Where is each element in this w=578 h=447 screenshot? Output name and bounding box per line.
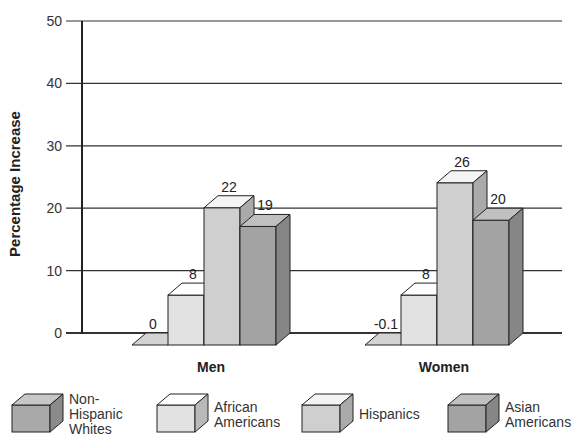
- y-tick-label: 0: [54, 325, 62, 341]
- bars: 082219-0.182620: [132, 154, 523, 345]
- y-tick-label: 10: [46, 263, 62, 279]
- legend-item: AfricanAmericans: [157, 394, 280, 432]
- legend-item: Hispanics: [302, 394, 420, 432]
- legend: Non-HispanicWhitesAfricanAmericansHispan…: [12, 391, 571, 437]
- bar-value-label: 26: [454, 154, 470, 170]
- y-tick-label: 50: [46, 13, 62, 29]
- bar: [240, 214, 290, 345]
- legend-label: Whites: [69, 421, 112, 437]
- bar-chart: 01020304050 Percentage Increase 082219-0…: [0, 0, 578, 447]
- bar: [473, 208, 523, 345]
- legend-item: Non-HispanicWhites: [12, 391, 123, 437]
- category-label: Men: [197, 359, 225, 375]
- bar-value-label: 8: [422, 266, 430, 282]
- legend-label: Hispanic: [69, 406, 123, 422]
- legend-label: Americans: [505, 414, 571, 430]
- bar-value-label: 0: [149, 316, 157, 332]
- category-labels: MenWomen: [197, 359, 469, 375]
- y-axis: 01020304050: [46, 13, 82, 341]
- legend-label: Non-: [69, 391, 100, 407]
- bar-value-label: 19: [257, 197, 273, 213]
- y-tick-label: 30: [46, 138, 62, 154]
- y-tick-label: 20: [46, 200, 62, 216]
- bar-value-label: 20: [490, 191, 506, 207]
- y-axis-label: Percentage Increase: [6, 111, 23, 257]
- legend-swatch: [157, 405, 195, 432]
- bar-value-label: -0.1: [374, 316, 398, 332]
- legend-label: African: [214, 399, 258, 415]
- bar-value-label: 22: [221, 179, 237, 195]
- legend-label: Hispanics: [359, 406, 420, 422]
- legend-swatch: [448, 405, 486, 432]
- bar-value-label: 8: [189, 266, 197, 282]
- y-tick-label: 40: [46, 75, 62, 91]
- legend-label: Asian: [505, 399, 540, 415]
- legend-swatch: [12, 405, 50, 432]
- legend-swatch: [302, 405, 340, 432]
- category-label: Women: [419, 359, 469, 375]
- legend-label: Americans: [214, 414, 280, 430]
- legend-item: AsianAmericans: [448, 394, 571, 432]
